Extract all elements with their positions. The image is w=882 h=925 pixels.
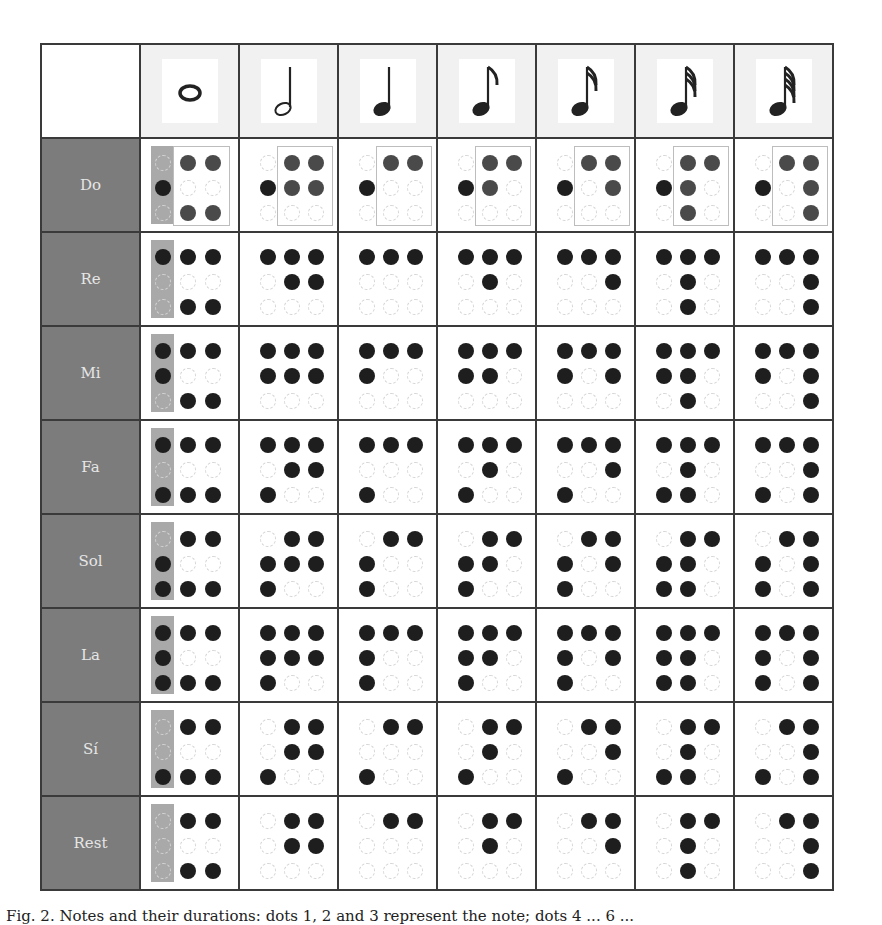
empty-dot-icon <box>205 838 221 854</box>
braille-cell <box>239 232 338 326</box>
filled-dot-icon <box>205 393 221 409</box>
empty-dot-icon <box>557 462 573 478</box>
empty-dot-icon <box>557 393 573 409</box>
empty-dot-icon <box>458 205 474 221</box>
braille-cell <box>140 326 239 420</box>
filled-dot-icon <box>680 581 696 597</box>
filled-dot-icon <box>755 437 771 453</box>
filled-dot-icon <box>205 581 221 597</box>
filled-dot-icon <box>680 556 696 572</box>
filled-dot-icon <box>605 437 621 453</box>
braille-cell <box>338 138 437 232</box>
empty-dot-icon <box>779 180 795 196</box>
empty-dot-icon <box>359 744 375 760</box>
filled-dot-icon <box>680 650 696 666</box>
filled-dot-icon <box>803 769 819 785</box>
empty-dot-icon <box>506 744 522 760</box>
filled-dot-icon <box>803 744 819 760</box>
filled-dot-icon <box>359 675 375 691</box>
empty-dot-icon <box>506 863 522 879</box>
braille-cell <box>239 420 338 514</box>
filled-dot-icon <box>779 531 795 547</box>
filled-dot-icon <box>557 625 573 641</box>
empty-dot-icon <box>458 838 474 854</box>
braille-cell <box>734 232 833 326</box>
filled-dot-icon <box>180 393 196 409</box>
row-label: Sol <box>41 514 140 608</box>
empty-dot-icon <box>755 744 771 760</box>
empty-dot-icon <box>359 719 375 735</box>
empty-dot-icon <box>482 205 498 221</box>
filled-dot-icon <box>359 650 375 666</box>
filled-dot-icon <box>803 719 819 735</box>
empty-dot-icon <box>359 462 375 478</box>
note-row-re: Re <box>41 232 833 326</box>
filled-dot-icon <box>680 274 696 290</box>
empty-dot-icon <box>155 531 171 547</box>
filled-dot-icon <box>407 813 423 829</box>
braille-cell <box>635 326 734 420</box>
empty-dot-icon <box>260 719 276 735</box>
empty-dot-icon <box>284 205 300 221</box>
filled-dot-icon <box>605 531 621 547</box>
empty-dot-icon <box>407 650 423 666</box>
empty-dot-icon <box>180 274 196 290</box>
braille-cell <box>536 326 635 420</box>
filled-dot-icon <box>308 249 324 265</box>
filled-dot-icon <box>284 437 300 453</box>
filled-dot-icon <box>155 487 171 503</box>
braille-cell <box>140 138 239 232</box>
empty-dot-icon <box>656 155 672 171</box>
empty-dot-icon <box>581 487 597 503</box>
figure-caption: Fig. 2. Notes and their durations: dots … <box>6 907 634 925</box>
braille-cell <box>140 796 239 890</box>
filled-dot-icon <box>581 437 597 453</box>
empty-dot-icon <box>656 274 672 290</box>
empty-dot-icon <box>656 205 672 221</box>
filled-dot-icon <box>755 368 771 384</box>
braille-cell <box>635 608 734 702</box>
filled-dot-icon <box>458 556 474 572</box>
empty-dot-icon <box>458 274 474 290</box>
empty-dot-icon <box>155 274 171 290</box>
empty-dot-icon <box>506 556 522 572</box>
empty-dot-icon <box>407 581 423 597</box>
row-label: Sí <box>41 702 140 796</box>
filled-dot-icon <box>155 650 171 666</box>
empty-dot-icon <box>704 180 720 196</box>
filled-dot-icon <box>704 155 720 171</box>
braille-cell <box>734 608 833 702</box>
column-header-whole <box>140 44 239 138</box>
braille-cell <box>437 608 536 702</box>
filled-dot-icon <box>180 437 196 453</box>
empty-dot-icon <box>284 769 300 785</box>
braille-cell <box>734 702 833 796</box>
filled-dot-icon <box>755 625 771 641</box>
filled-dot-icon <box>581 155 597 171</box>
empty-dot-icon <box>180 838 196 854</box>
empty-dot-icon <box>656 813 672 829</box>
filled-dot-icon <box>605 813 621 829</box>
filled-dot-icon <box>407 155 423 171</box>
filled-dot-icon <box>458 249 474 265</box>
empty-dot-icon <box>359 531 375 547</box>
filled-dot-icon <box>155 343 171 359</box>
braille-cell <box>437 138 536 232</box>
filled-dot-icon <box>284 274 300 290</box>
empty-dot-icon <box>359 155 375 171</box>
filled-dot-icon <box>180 719 196 735</box>
braille-cell <box>635 420 734 514</box>
empty-dot-icon <box>506 274 522 290</box>
empty-dot-icon <box>779 581 795 597</box>
braille-cell <box>635 796 734 890</box>
empty-dot-icon <box>383 462 399 478</box>
braille-cell <box>536 232 635 326</box>
empty-dot-icon <box>506 299 522 315</box>
empty-dot-icon <box>704 838 720 854</box>
filled-dot-icon <box>359 343 375 359</box>
empty-dot-icon <box>581 393 597 409</box>
empty-dot-icon <box>284 675 300 691</box>
filled-dot-icon <box>803 487 819 503</box>
empty-dot-icon <box>704 863 720 879</box>
note-row-fa: Fa <box>41 420 833 514</box>
